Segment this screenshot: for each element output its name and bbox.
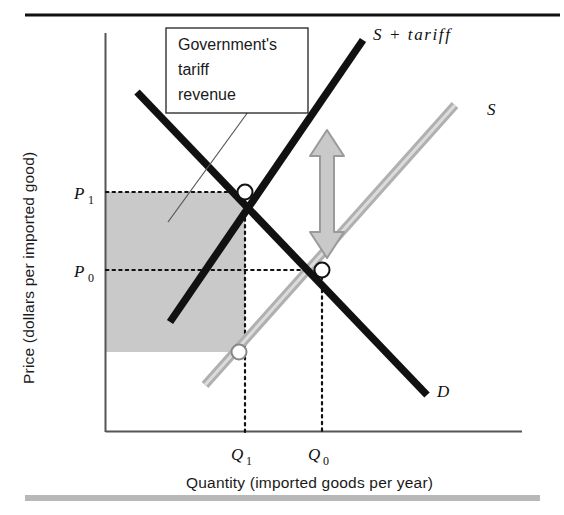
x-axis-title: Quantity (imported goods per year) [186,474,433,491]
callout-line-3: revenue [178,86,236,103]
x-tick-q1-subscript: 1 [246,454,252,468]
y-tick-p1-label: P [73,184,84,203]
diagram-canvas: Government's tariff revenue S + tariff S… [0,0,564,515]
x-tick-q0: Q 0 [308,445,329,468]
x-tick-q0-subscript: 0 [323,454,329,468]
y-axis-title: Price (dollars per imported good) [20,152,37,384]
x-tick-q1-label: Q [231,445,243,464]
x-tick-q0-label: Q [308,445,320,464]
x-tick-q1: Q 1 [231,445,252,468]
y-tick-p1: P 1 [73,184,94,207]
marker-domestic-supply-at-q1 [232,345,247,360]
tariff-revenue-shaded-region [106,192,245,352]
marker-equilibrium-free-trade [315,263,330,278]
tariff-gap-arrow [310,130,344,258]
curve-label-supply-plus-tariff: S + tariff [373,25,452,44]
callout-line-1: Government's [178,36,277,53]
curve-label-demand: D [436,382,450,401]
y-tick-p1-subscript: 1 [88,193,94,207]
tariff-diagram-figure: Government's tariff revenue S + tariff S… [0,0,564,515]
marker-equilibrium-with-tariff [238,185,253,200]
y-tick-p0-subscript: 0 [88,271,94,285]
callout-line-2: tariff [178,61,209,78]
y-tick-p0: P 0 [73,262,94,285]
y-tick-p0-label: P [73,262,84,281]
curve-label-supply: S [487,100,496,119]
